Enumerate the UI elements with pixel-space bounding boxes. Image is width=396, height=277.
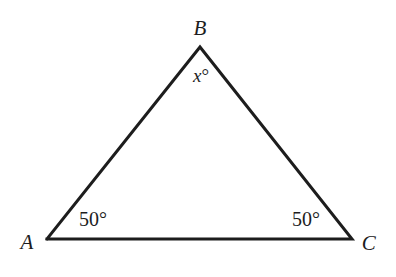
vertex-label-a: A	[20, 232, 33, 253]
angle-label-c: 50°	[292, 209, 320, 229]
angle-label-b: x°	[193, 66, 209, 85]
vertex-label-b: B	[193, 18, 206, 39]
triangle-shape	[0, 0, 396, 277]
angle-degree-symbol: °	[201, 65, 209, 86]
angle-label-a: 50°	[79, 209, 107, 229]
vertex-label-c: C	[362, 233, 376, 254]
geometry-figure: B A C x° 50° 50°	[0, 0, 396, 277]
